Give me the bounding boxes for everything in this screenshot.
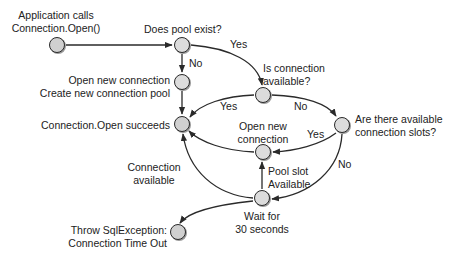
label-slots-available: Are there available connection slots? [355, 113, 443, 138]
edge-label-yes-pool-text: Yes [230, 38, 247, 50]
label-open-new-line1: Open new [228, 120, 298, 133]
label-open-new-line2: connection [228, 133, 298, 146]
edge-label-no-pool-text: No [189, 57, 202, 69]
label-slots-line1: Are there available [355, 113, 443, 126]
label-conn-available-line1: Is connection [263, 62, 325, 75]
label-pool-exists: Does pool exist? [144, 23, 222, 36]
label-open-new-conn: Open new connection [228, 120, 298, 145]
label-wait-line1: Wait for [227, 210, 297, 223]
node-throw [170, 224, 186, 240]
edge-label-pool-slot-line1: Pool slot [268, 165, 310, 178]
label-start: Application calls Connection.Open() [6, 9, 106, 34]
node-pool-exists [174, 37, 190, 53]
label-wait-line2: 30 seconds [227, 223, 297, 236]
edge-label-conn-available-line1: Connection [124, 161, 184, 174]
edge-label-yes-slots-text: Yes [307, 128, 324, 140]
edge-label-yes-conn-text: Yes [220, 100, 237, 112]
label-create-pool: Open new connection Create new connectio… [30, 74, 170, 99]
node-open-succeeds [174, 116, 190, 132]
label-wait: Wait for 30 seconds [227, 210, 297, 235]
label-pool-exists-text: Does pool exist? [144, 23, 222, 35]
label-start-line2: Connection.Open() [6, 22, 106, 35]
label-create-pool-line2: Create new connection pool [30, 87, 170, 100]
label-throw: Throw SqlException: Connection Time Out [40, 224, 167, 249]
node-create-pool [174, 74, 190, 90]
edge-label-yes-pool: Yes [230, 38, 247, 51]
edge-label-conn-available: Connection available [124, 161, 184, 186]
label-create-pool-line1: Open new connection [30, 74, 170, 87]
edge-label-no-pool: No [189, 57, 202, 70]
label-throw-line1: Throw SqlException: [40, 224, 167, 237]
node-start [49, 37, 65, 53]
edge-label-pool-slot-line2: Available [268, 178, 310, 191]
label-slots-line2: connection slots? [355, 126, 443, 139]
edge-label-yes-conn: Yes [220, 100, 237, 113]
edge-label-yes-slots: Yes [307, 128, 324, 141]
edge-label-no-conn: No [294, 100, 307, 113]
label-open-succeeds-text: Connection.Open succeeds [41, 119, 170, 131]
edge-label-pool-slot: Pool slot Available [268, 165, 310, 190]
edge-label-no-conn-text: No [294, 100, 307, 112]
edge-label-no-slots-text: No [338, 158, 351, 170]
label-throw-line2: Connection Time Out [40, 237, 167, 250]
node-wait [254, 190, 270, 206]
node-slots-available [334, 117, 350, 133]
node-conn-available [255, 87, 271, 103]
label-open-succeeds: Connection.Open succeeds [30, 119, 170, 132]
edge-label-conn-available-line2: available [124, 174, 184, 187]
label-start-line1: Application calls [6, 9, 106, 22]
label-conn-available: Is connection available? [263, 62, 325, 87]
label-conn-available-line2: available? [263, 75, 325, 88]
node-open-new-conn [255, 144, 271, 160]
edge-label-no-slots: No [338, 158, 351, 171]
